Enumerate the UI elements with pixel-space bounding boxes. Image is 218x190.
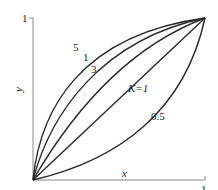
curve-label-k1: K=1 bbox=[127, 82, 148, 94]
chart: 1 1 x y 5 1 3 K=1 0.5 bbox=[0, 0, 218, 190]
curve-label-0-5: 0.5 bbox=[151, 110, 165, 122]
x-tick-label: 1 bbox=[201, 183, 207, 190]
y-tick-label: 1 bbox=[22, 12, 28, 24]
y-axis-label: y bbox=[12, 87, 24, 93]
curve-k1 bbox=[33, 18, 205, 180]
curve-label-5: 5 bbox=[73, 41, 79, 53]
x-axis-label: x bbox=[121, 167, 127, 179]
curve-label-1: 1 bbox=[83, 51, 89, 63]
curve-label-3: 3 bbox=[91, 63, 97, 75]
